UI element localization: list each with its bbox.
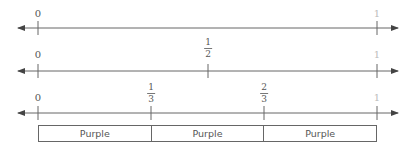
label-one: 1 [374, 9, 380, 19]
label-zero: 0 [35, 93, 41, 103]
fraction-label-two-thirds: 2 3 [260, 83, 268, 104]
number-line-whole [18, 21, 398, 35]
label-one: 1 [374, 93, 380, 103]
label-zero: 0 [35, 9, 41, 19]
fraction-bar: Purple Purple Purple [38, 125, 377, 142]
number-line-thirds [18, 106, 398, 120]
numerator: 2 [260, 83, 268, 94]
denominator: 3 [147, 94, 155, 104]
denominator: 3 [260, 94, 268, 104]
label-zero: 0 [35, 50, 41, 60]
denominator: 2 [204, 49, 212, 59]
fraction-label-one-half: 1 2 [204, 38, 212, 59]
number-line-halves [18, 64, 398, 78]
fraction-bar-segment: Purple [39, 126, 152, 141]
label-one: 1 [374, 50, 380, 60]
fraction-bar-segment: Purple [264, 126, 376, 141]
numerator: 1 [204, 38, 212, 49]
fraction-bar-segment: Purple [152, 126, 265, 141]
fraction-label-one-third: 1 3 [147, 83, 155, 104]
numerator: 1 [147, 83, 155, 94]
